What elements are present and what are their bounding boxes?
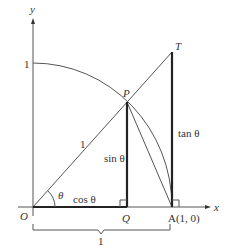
point-Q-label: Q [122,212,130,224]
brace-label: 1 [98,235,104,247]
unit-circle-diagram: y 1 x θ P T O Q A(1, 0) 1 cos θ sin θ ta… [0,0,229,247]
chord-PA [127,102,172,207]
point-P-label: P [122,87,130,99]
y-axis [31,18,35,216]
line-OT [33,52,172,207]
origin-label: O [20,210,28,222]
y-tick-label: 1 [24,58,30,70]
cos-label: cos θ [73,193,96,205]
point-T-label: T [175,40,182,52]
y-axis-label: y [29,3,35,15]
point-A-label: A(1, 0) [168,212,200,225]
unit-circle-arc [33,63,172,207]
x-axis-label: x [213,201,219,213]
sin-label: sin θ [104,152,125,164]
angle-arc-theta [48,191,55,207]
brace-unit-length [33,224,170,234]
theta-label: θ [58,189,64,201]
tan-label: tan θ [178,127,199,139]
radius-label: 1 [80,138,86,150]
